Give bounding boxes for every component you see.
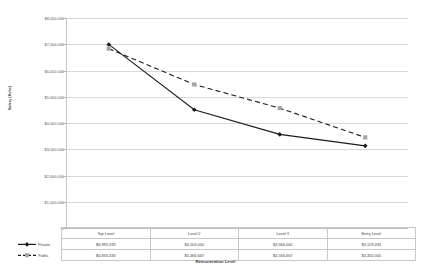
table-row: Private $6,993,333$4,503,000$3,566,000$3… (16, 239, 416, 250)
table-body: Private $6,993,333$4,503,000$3,566,000$3… (16, 239, 416, 261)
y-tick-label: $4,000,000 (18, 121, 64, 126)
y-tick-label: $7,000,000 (18, 42, 64, 47)
table-column-header: Level 2 (150, 228, 239, 239)
table-column-header: Level 3 (239, 228, 328, 239)
y-tick-label: $2,000,000 (18, 173, 64, 178)
y-axis-tick-labels: $8,000,000$7,000,000$6,000,000$5,000,000… (16, 0, 64, 228)
table-cell: $4,503,000 (150, 239, 239, 250)
legend-entry-private[interactable]: Private (16, 239, 62, 250)
y-tick-label: $8,000,000 (18, 16, 64, 21)
legend-marker-icon (18, 241, 36, 248)
data-point-marker-public (107, 47, 111, 51)
data-point-marker-public (192, 82, 196, 86)
series-line-public (109, 49, 366, 138)
plot-area: Salary (Kshs) $8,000,000$7,000,000$6,000… (0, 0, 431, 228)
legend-label: Private (38, 242, 50, 247)
table-column-header: Top Level (62, 228, 151, 239)
chart-data-table: Top LevelLevel 2Level 3Entry Level Priva… (16, 227, 416, 261)
data-point-marker-public (363, 135, 367, 139)
y-axis-title: Salary (Kshs) (8, 68, 12, 128)
y-tick-label: $3,000,000 (18, 147, 64, 152)
table-cell: $3,566,000 (239, 239, 328, 250)
series-line-private (109, 44, 366, 145)
table-column-header: Entry Level (327, 228, 416, 239)
table-corner-blank (16, 228, 62, 239)
y-tick-label: $1,000,000 (18, 199, 64, 204)
y-tick-label: $6,000,000 (18, 68, 64, 73)
data-point-marker-public (278, 106, 282, 110)
legend-label: Public (38, 253, 49, 258)
table-cell: $6,993,333 (62, 239, 151, 250)
table-header-row: Top LevelLevel 2Level 3Entry Level (16, 228, 416, 239)
series-lines (66, 0, 408, 228)
x-axis-title: Remuneration Level (0, 259, 431, 264)
legend-marker-icon (18, 252, 36, 259)
data-point-marker-private (277, 132, 282, 137)
data-point-marker-private (363, 144, 368, 149)
chart-figure: Salary (Kshs) $8,000,000$7,000,000$6,000… (0, 0, 431, 271)
table-cell: $3,129,333 (327, 239, 416, 250)
y-tick-label: $5,000,000 (18, 94, 64, 99)
